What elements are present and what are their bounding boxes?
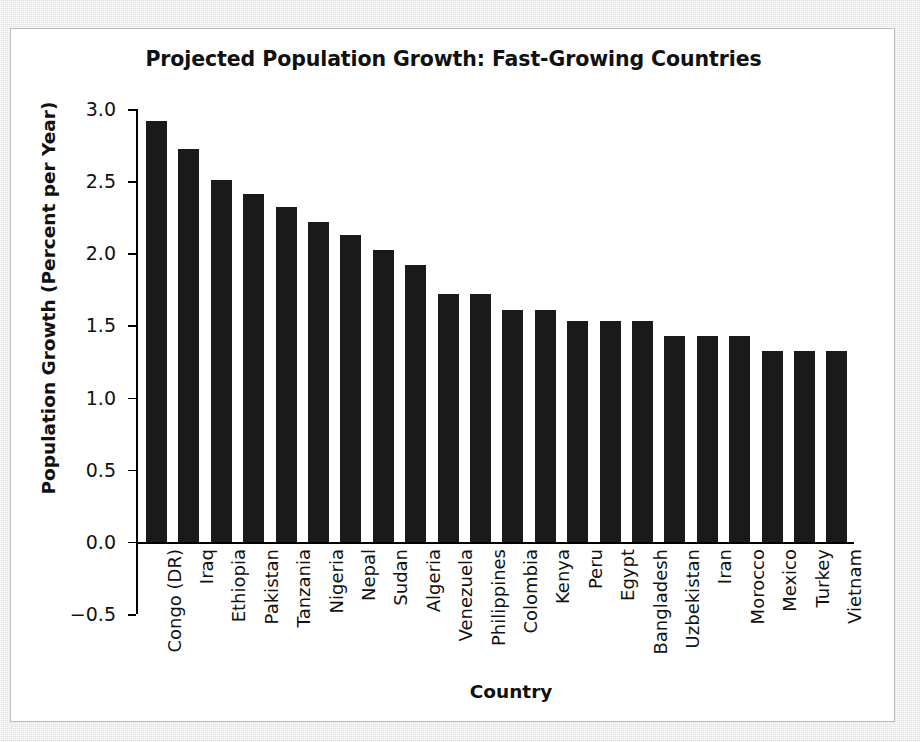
y-axis-spine: [136, 109, 138, 614]
x-axis-title: Country: [136, 681, 886, 702]
y-axis-tick-label: 0.0: [86, 531, 116, 553]
y-axis-tick-label: 2.0: [86, 242, 116, 264]
bar: [340, 235, 361, 542]
x-axis-tick-label: Nigeria: [326, 549, 347, 613]
bar: [664, 336, 685, 542]
x-axis-tick-label: Philippines: [488, 549, 509, 646]
x-axis-tick-label: Nepal: [358, 549, 379, 601]
screenshot-root: Projected Population Growth: Fast-Growin…: [0, 0, 920, 742]
y-axis-tick: 0.5: [128, 470, 136, 472]
bar: [697, 336, 718, 542]
bar: [146, 121, 167, 542]
y-axis-tick: 2.5: [128, 181, 136, 183]
x-axis-tick-label: Vietnam: [844, 549, 865, 624]
x-axis-tick-label: Turkey: [812, 549, 833, 608]
x-axis-tick-label: Egypt: [617, 549, 638, 601]
x-axis-tick-label: Tanzania: [293, 549, 314, 627]
bar: [502, 310, 523, 542]
x-axis-tick-label: Peru: [585, 549, 606, 589]
bar: [762, 351, 783, 541]
bar: [567, 321, 588, 542]
x-axis-tick-label: Colombia: [520, 549, 541, 634]
bar: [178, 149, 199, 541]
bar: [535, 310, 556, 542]
y-axis-tick: 2.0: [128, 253, 136, 255]
x-axis-tick-label: Iraq: [196, 549, 217, 584]
y-axis-tick-label: 3.0: [86, 98, 116, 120]
y-axis-tick: −0.5: [128, 614, 136, 616]
plot-area: 3.02.52.01.51.00.50.0−0.5 Congo (DR)Iraq…: [136, 109, 886, 614]
x-axis-tick-label: Iran: [714, 549, 735, 584]
x-axis-tick-label: Morocco: [747, 549, 768, 624]
x-axis-tick-label: Venezuela: [455, 549, 476, 641]
x-axis-tick-label: Congo (DR): [164, 549, 185, 653]
bar: [276, 207, 297, 542]
bar: [600, 321, 621, 542]
y-axis-tick-label: −0.5: [70, 603, 116, 625]
bar: [243, 194, 264, 542]
x-axis-tick-label: Sudan: [390, 549, 411, 606]
y-axis-tick-label: 1.0: [86, 387, 116, 409]
y-axis-tick: 3.0: [128, 109, 136, 111]
bar: [373, 250, 394, 541]
bar: [438, 294, 459, 542]
bar: [632, 321, 653, 542]
x-axis-tick-label: Bangladesh: [650, 549, 671, 655]
x-axis-spine: [136, 542, 854, 544]
bar: [308, 222, 329, 542]
chart-title: Projected Population Growth: Fast-Growin…: [11, 47, 896, 71]
y-axis-tick-label: 1.5: [86, 314, 116, 336]
x-axis-tick-label: Uzbekistan: [682, 549, 703, 648]
bar: [729, 336, 750, 542]
x-axis-tick-label: Algeria: [423, 549, 444, 612]
y-axis-tick: 1.5: [128, 325, 136, 327]
y-axis-tick: 0.0: [128, 542, 136, 544]
bar: [211, 180, 232, 542]
y-axis-tick: 1.0: [128, 398, 136, 400]
x-axis-tick-label: Kenya: [552, 549, 573, 604]
x-axis-tick-label: Pakistan: [261, 549, 282, 624]
bar: [794, 351, 815, 541]
bar: [826, 351, 847, 541]
x-axis-tick-label: Mexico: [779, 549, 800, 612]
bar: [405, 265, 426, 542]
bar: [470, 294, 491, 542]
x-axis-tick-label: Ethiopia: [228, 549, 249, 622]
y-axis-tick-label: 0.5: [86, 459, 116, 481]
y-axis-title: Population Growth (Percent per Year): [38, 165, 59, 495]
y-axis-tick-label: 2.5: [86, 170, 116, 192]
chart-figure-card: Projected Population Growth: Fast-Growin…: [10, 28, 895, 722]
